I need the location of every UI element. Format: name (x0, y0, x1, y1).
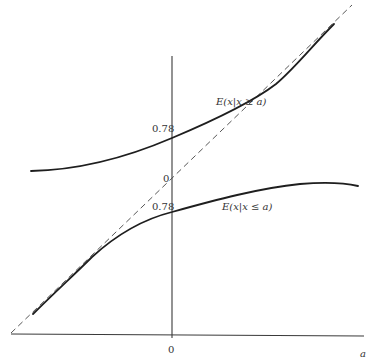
lower-intercept-label: 0.78 (152, 201, 174, 212)
x-axis (11, 334, 364, 336)
upper-intercept-label: 0.78 (152, 123, 174, 134)
upper-conditional-curve (31, 24, 334, 171)
upper-curve-label: E(x|x ≥ a) (215, 96, 267, 108)
origin-y-label: 0 (163, 173, 169, 184)
lower-curve-label: E(x|x ≤ a) (221, 201, 273, 213)
conditional-mean-chart: 0.78 0 0.78 E(x|x ≥ a) E(x|x ≤ a) 0 a (0, 0, 376, 361)
x-axis-label: a (360, 348, 366, 359)
lower-conditional-curve (33, 183, 358, 314)
x-origin-label: 0 (168, 344, 174, 355)
